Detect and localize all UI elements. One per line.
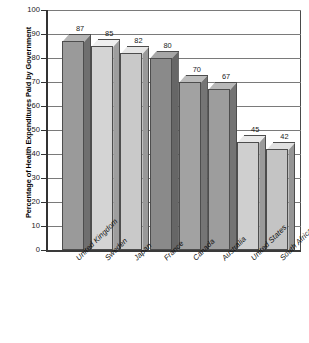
y-axis-tick-label: 20	[18, 198, 40, 206]
bar-top-edge	[157, 51, 179, 52]
y-axis-tick-mark	[41, 10, 47, 11]
y-axis-tick-label: 30	[18, 174, 40, 182]
y-axis-tick-label: 70	[18, 78, 40, 86]
y-axis-tick-mark	[41, 82, 47, 83]
y-axis-tick-mark	[41, 154, 47, 155]
bar-front-face	[179, 82, 201, 250]
y-axis-tick-mark	[41, 58, 47, 59]
bar-top-edge	[244, 135, 266, 136]
y-axis-tick-label: 40	[18, 150, 40, 158]
bar-chart: Percentage of Health Expenditures Paid b…	[0, 0, 309, 343]
y-axis-tick-mark	[41, 106, 47, 107]
y-axis-tick-label: 0	[18, 246, 40, 254]
bar-side-face	[201, 75, 208, 250]
y-axis-tick-labels: 1009080706050403020100	[14, 0, 40, 343]
y-axis-tick-label: 60	[18, 102, 40, 110]
bar-top-edge	[69, 34, 91, 35]
bar	[208, 82, 237, 250]
bar-top-edge	[98, 39, 120, 40]
y-axis-tick-mark	[41, 202, 47, 203]
y-axis-tick-mark	[41, 34, 47, 35]
bar-front-face	[120, 53, 142, 250]
bar-value-label: 42	[264, 132, 304, 141]
y-axis-tick-label: 100	[18, 6, 40, 14]
bar	[62, 34, 91, 250]
bar-side-face	[230, 82, 237, 250]
bar-top-edge	[273, 142, 295, 143]
bar	[150, 51, 179, 250]
plot-area: 8785828070674542	[46, 10, 301, 250]
y-axis-tick-label: 80	[18, 54, 40, 62]
bar	[91, 39, 120, 250]
bar-side-face	[259, 135, 266, 250]
y-axis-tick-label: 10	[18, 222, 40, 230]
y-axis-tick-mark	[41, 130, 47, 131]
bar	[179, 75, 208, 250]
bar-top-edge	[215, 82, 237, 83]
bar-value-label: 80	[148, 41, 188, 50]
bar-side-face	[172, 51, 179, 250]
bar-front-face	[208, 89, 230, 250]
bar-top-edge	[127, 46, 149, 47]
bar-top-edge	[186, 75, 208, 76]
gridline	[46, 10, 301, 11]
y-axis-tick-label: 90	[18, 30, 40, 38]
bar	[237, 135, 266, 250]
bar-side-face	[84, 34, 91, 250]
bar-front-face	[150, 58, 172, 250]
y-axis-tick-mark	[41, 226, 47, 227]
bar-front-face	[62, 41, 84, 250]
y-axis-tick-mark	[41, 178, 47, 179]
bar-side-face	[142, 46, 149, 250]
bar-value-label: 67	[206, 72, 246, 81]
y-axis-tick-label: 50	[18, 126, 40, 134]
bar	[120, 46, 149, 250]
bar-side-face	[288, 142, 295, 250]
